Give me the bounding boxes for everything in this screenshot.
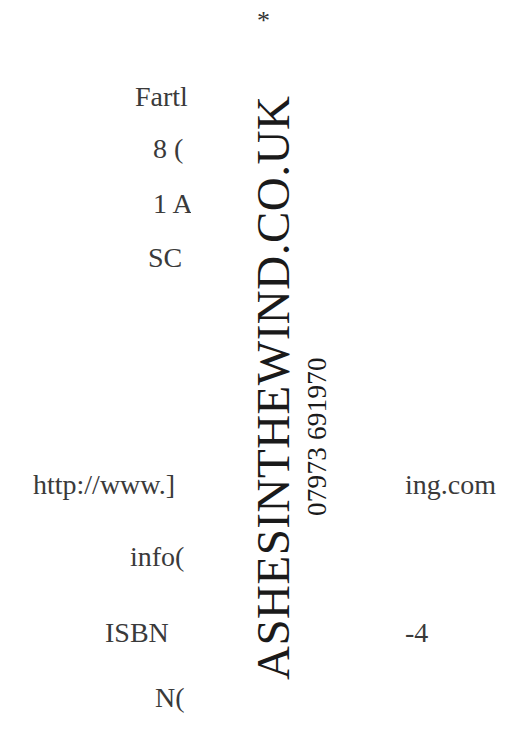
notice-partial: N(: [155, 684, 185, 712]
postcode-partial: SC: [148, 244, 182, 272]
address-line1-partial: 8 (: [153, 135, 183, 163]
isbn-label: ISBN: [105, 619, 169, 647]
document-page: * Fartl 8 ( 1 A SC http://www.] ing.com …: [0, 0, 526, 752]
website-url-right-partial: ing.com: [405, 471, 496, 499]
email-partial: info(: [130, 543, 184, 571]
isbn-suffix: -4: [405, 619, 428, 647]
redaction-mask-tail: [400, 540, 460, 600]
publisher-name-partial: Fartl: [135, 83, 188, 111]
watermark-website: ASHESINTHEWIND.CO.UK: [252, 96, 294, 680]
top-asterisk: *: [257, 8, 270, 34]
website-url-left-partial: http://www.]: [33, 471, 175, 499]
watermark-phone: 07973 691970: [303, 357, 331, 516]
address-line2-partial: 1 A: [153, 190, 193, 218]
